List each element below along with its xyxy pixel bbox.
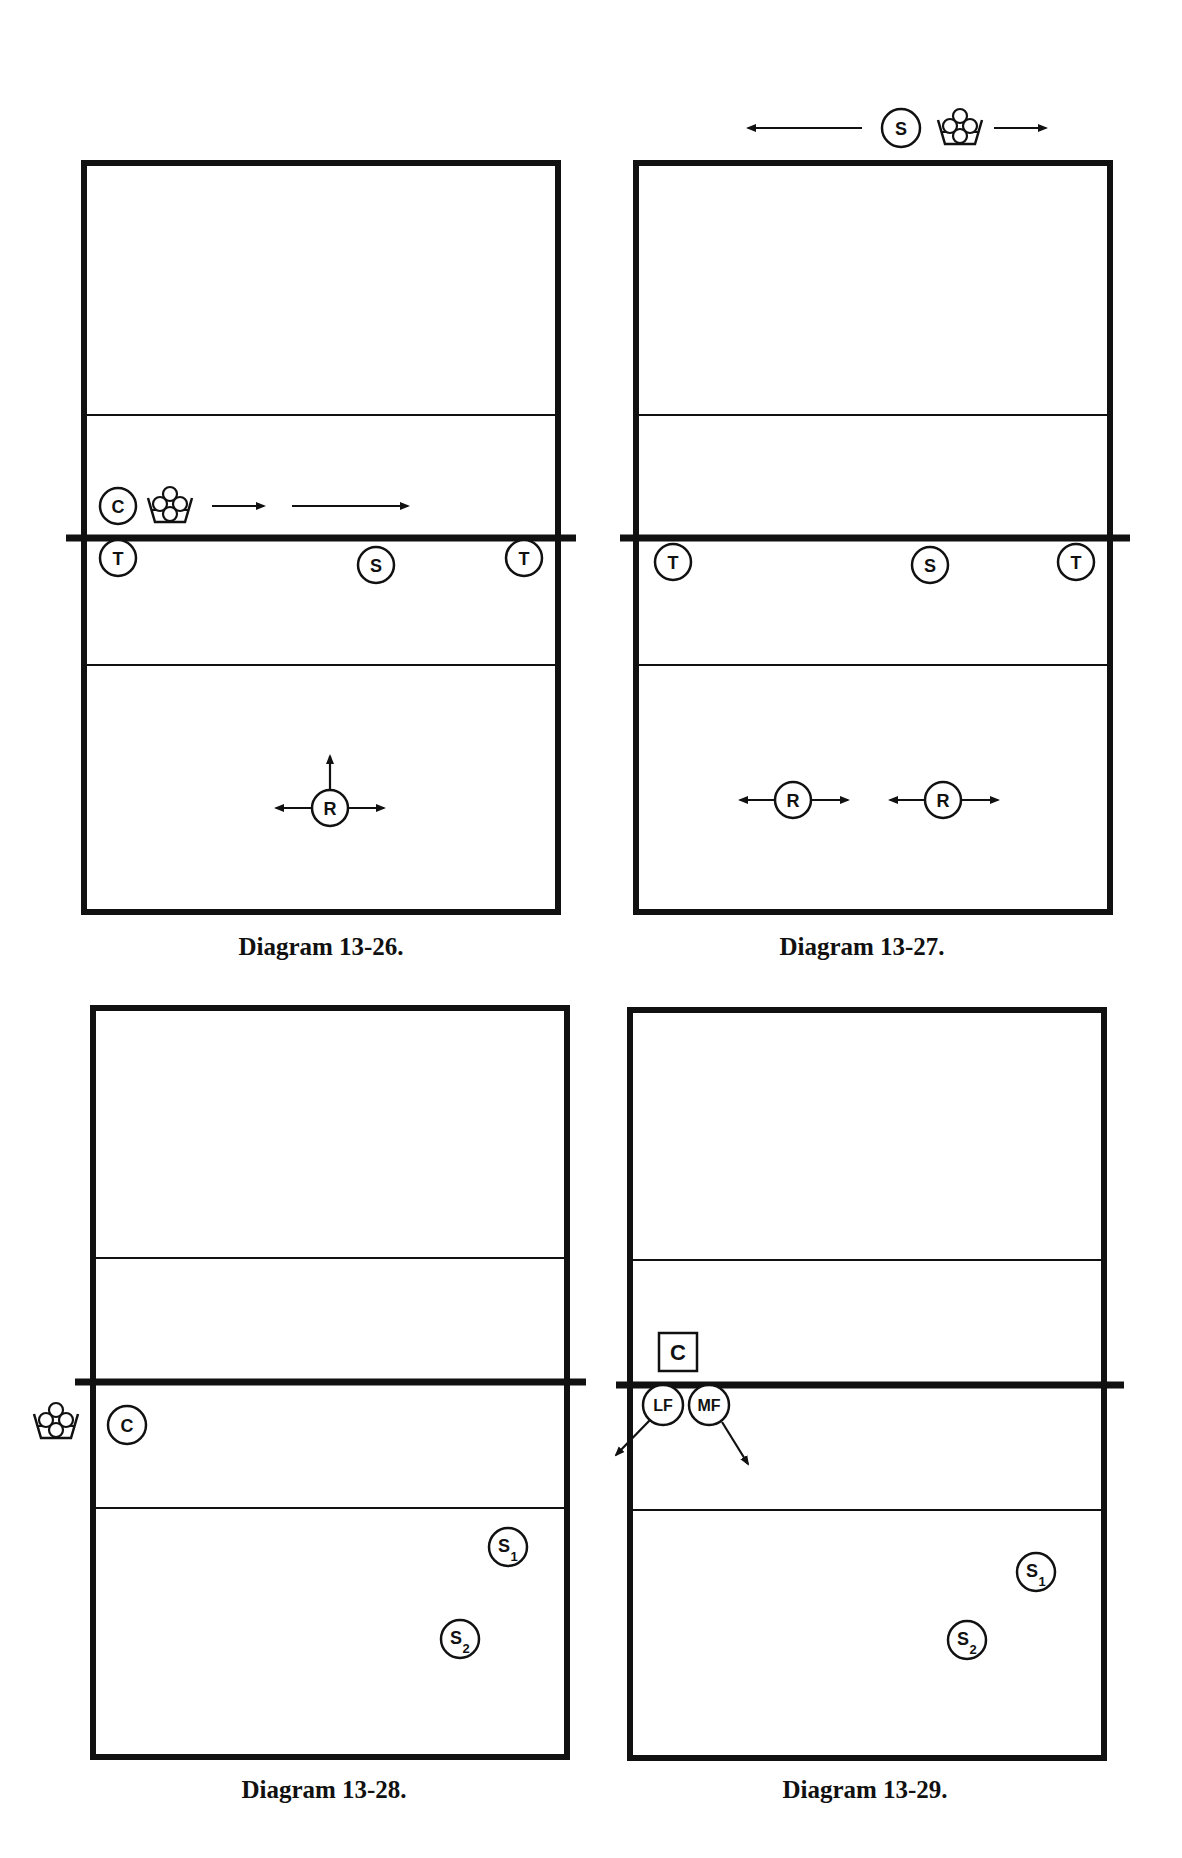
player-setter: S bbox=[358, 547, 394, 583]
player-coach: C bbox=[108, 1406, 146, 1444]
svg-text:C: C bbox=[112, 497, 125, 517]
svg-text:S: S bbox=[370, 556, 382, 576]
player-server: S bbox=[882, 109, 920, 147]
player-server-2: S 2 bbox=[948, 1621, 986, 1659]
ball-basket-icon bbox=[148, 487, 192, 522]
svg-text:T: T bbox=[519, 549, 530, 569]
svg-text:T: T bbox=[668, 553, 679, 573]
diagram-caption: Diagram 13-29. bbox=[665, 1776, 1065, 1804]
player-setter: S bbox=[912, 547, 948, 583]
svg-text:S: S bbox=[498, 1536, 510, 1556]
diagram-13-27: S T S T R R bbox=[620, 109, 1130, 912]
svg-text:2: 2 bbox=[969, 1642, 976, 1657]
player-tosser-left: T bbox=[100, 540, 136, 576]
ball-basket-icon bbox=[34, 1403, 78, 1438]
svg-text:S: S bbox=[924, 556, 936, 576]
player-left-front: LF bbox=[643, 1385, 683, 1425]
svg-text:S: S bbox=[1026, 1561, 1038, 1581]
svg-text:1: 1 bbox=[1038, 1574, 1045, 1589]
svg-text:S: S bbox=[450, 1628, 462, 1648]
player-tosser-right: T bbox=[506, 540, 542, 576]
svg-text:T: T bbox=[113, 549, 124, 569]
player-tosser-right: T bbox=[1058, 544, 1094, 580]
player-receiver-right: R bbox=[890, 782, 998, 818]
svg-text:LF: LF bbox=[653, 1397, 673, 1414]
svg-text:MF: MF bbox=[697, 1397, 720, 1414]
diagram-caption: Diagram 13-28. bbox=[124, 1776, 524, 1804]
svg-text:S: S bbox=[895, 119, 907, 139]
player-server-1: S 1 bbox=[1017, 1553, 1055, 1591]
player-coach: C bbox=[100, 488, 136, 524]
arrow-down-right-icon bbox=[722, 1422, 748, 1464]
player-receiver: R bbox=[276, 756, 384, 826]
player-server-2: S 2 bbox=[441, 1620, 479, 1658]
svg-text:R: R bbox=[324, 799, 337, 819]
drill-diagrams-page: C T S T R S bbox=[0, 0, 1182, 1858]
svg-text:C: C bbox=[670, 1340, 686, 1365]
svg-text:2: 2 bbox=[462, 1641, 469, 1656]
svg-text:R: R bbox=[787, 791, 800, 811]
svg-text:1: 1 bbox=[510, 1549, 517, 1564]
diagram-13-26: C T S T R bbox=[66, 163, 576, 912]
ball-basket-icon bbox=[938, 109, 982, 144]
svg-text:R: R bbox=[937, 791, 950, 811]
player-tosser-left: T bbox=[655, 544, 691, 580]
player-receiver-left: R bbox=[740, 782, 848, 818]
svg-text:C: C bbox=[121, 1416, 134, 1436]
coach-box: C bbox=[659, 1333, 697, 1371]
svg-text:S: S bbox=[957, 1629, 969, 1649]
diagram-caption: Diagram 13-27. bbox=[662, 933, 1062, 961]
diagram-13-28: C S 1 S 2 bbox=[34, 1008, 586, 1757]
diagram-13-29: C LF MF S 1 S 2 bbox=[616, 1010, 1124, 1758]
svg-text:T: T bbox=[1071, 553, 1082, 573]
player-middle-front: MF bbox=[689, 1385, 729, 1425]
diagram-caption: Diagram 13-26. bbox=[121, 933, 521, 961]
player-server-1: S 1 bbox=[489, 1528, 527, 1566]
